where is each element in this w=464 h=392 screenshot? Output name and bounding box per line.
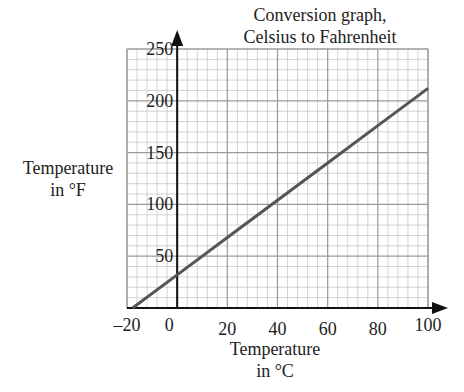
y-tick-label: 50 bbox=[127, 247, 173, 265]
x-tick-label: 80 bbox=[358, 320, 398, 338]
y-tick-label: 250 bbox=[127, 40, 173, 58]
x-tick-label: 60 bbox=[308, 320, 348, 338]
x-axis-label-line-1: Temperature bbox=[200, 338, 350, 360]
x-tick-label: 0 bbox=[149, 316, 189, 334]
x-axis-label: Temperature in °C bbox=[200, 338, 350, 382]
y-axis-label-line-1: Temperature bbox=[8, 157, 128, 179]
x-axis-arrow-icon bbox=[432, 302, 448, 314]
x-tick-label: 100 bbox=[408, 316, 448, 334]
x-tick-label: 40 bbox=[258, 320, 298, 338]
y-tick-label: 100 bbox=[127, 195, 173, 213]
chart-title-line-2: Celsius to Fahrenheit bbox=[190, 26, 450, 48]
chart-title-line-1: Conversion graph, bbox=[190, 4, 450, 26]
grid-major bbox=[127, 49, 428, 308]
y-tick-label: 200 bbox=[127, 92, 173, 110]
y-tick-label: 150 bbox=[127, 144, 173, 162]
y-axis-label: Temperature in °F bbox=[8, 157, 128, 201]
y-axis-label-line-2: in °F bbox=[8, 179, 128, 201]
x-tick-label: –20 bbox=[107, 316, 147, 334]
chart-title: Conversion graph, Celsius to Fahrenheit bbox=[190, 4, 450, 48]
x-tick-label: 20 bbox=[207, 320, 247, 338]
x-axis-label-line-2: in °C bbox=[200, 360, 350, 382]
